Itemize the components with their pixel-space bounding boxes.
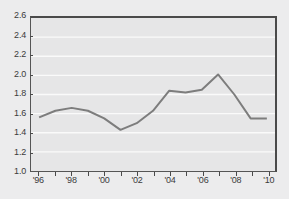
y-axis-tick-label: 1.2 bbox=[0, 148, 26, 157]
x-axis-tick-mark bbox=[170, 172, 171, 176]
y-axis-tick-label: 1.6 bbox=[0, 109, 26, 118]
x-axis-tick-mark bbox=[203, 172, 204, 176]
chart-figure: 1.01.21.41.61.82.02.22.42.6 '96'98'00'02… bbox=[0, 0, 289, 199]
x-axis-tick-label: '98 bbox=[56, 176, 86, 185]
data-line-series-1 bbox=[31, 18, 275, 171]
x-axis-tick-mark bbox=[219, 172, 220, 176]
x-axis-tick-label: '10 bbox=[254, 176, 284, 185]
y-axis-tick-label: 1.4 bbox=[0, 128, 26, 137]
x-axis-tick-label: '96 bbox=[23, 176, 53, 185]
y-axis-tick-label: 2.2 bbox=[0, 50, 26, 59]
x-axis-tick-label: '06 bbox=[188, 176, 218, 185]
y-axis-tick-label: 2.0 bbox=[0, 70, 26, 79]
x-axis-tick-mark bbox=[269, 172, 270, 176]
x-axis-tick-mark bbox=[137, 172, 138, 176]
y-axis-tick-label: 1.8 bbox=[0, 89, 26, 98]
x-axis-tick-mark bbox=[55, 172, 56, 176]
y-axis-tick-label: 1.0 bbox=[0, 167, 26, 176]
plot-area bbox=[30, 16, 277, 172]
x-axis-tick-mark bbox=[121, 172, 122, 176]
x-axis-tick-mark bbox=[71, 172, 72, 176]
y-axis-tick-label: 2.6 bbox=[0, 11, 26, 20]
x-axis-tick-mark bbox=[252, 172, 253, 176]
x-axis-tick-mark bbox=[38, 172, 39, 176]
x-axis-tick-mark bbox=[236, 172, 237, 176]
x-axis-tick-label: '04 bbox=[155, 176, 185, 185]
y-axis-tick-label: 2.4 bbox=[0, 31, 26, 40]
x-axis-tick-mark bbox=[88, 172, 89, 176]
data-line bbox=[39, 74, 267, 129]
x-axis-tick-mark bbox=[104, 172, 105, 176]
x-axis-tick-label: '08 bbox=[221, 176, 251, 185]
x-axis-tick-mark bbox=[186, 172, 187, 176]
x-axis-tick-mark bbox=[154, 172, 155, 176]
x-axis-tick-label: '02 bbox=[122, 176, 152, 185]
x-axis-tick-label: '00 bbox=[89, 176, 119, 185]
